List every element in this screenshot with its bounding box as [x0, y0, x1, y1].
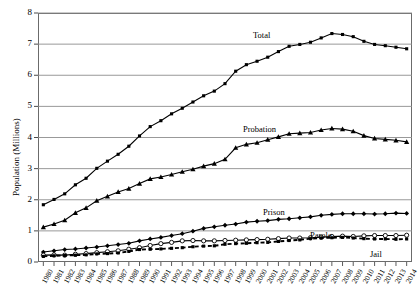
- data-point-parole: [148, 243, 152, 247]
- data-point-parole: [266, 237, 270, 241]
- data-point-total: [127, 145, 130, 148]
- data-point-total: [277, 50, 280, 53]
- data-point-total: [298, 43, 301, 46]
- data-point-total: [106, 160, 109, 163]
- data-point-total: [352, 35, 355, 38]
- data-point-prison: [201, 226, 206, 231]
- data-point-prison: [233, 222, 238, 227]
- data-point-prison: [362, 211, 367, 216]
- data-point-jail: [352, 236, 355, 239]
- data-point-jail: [52, 254, 55, 257]
- data-point-parole: [169, 240, 173, 244]
- data-point-jail: [149, 248, 152, 251]
- data-point-probation: [83, 205, 88, 210]
- data-point-total: [234, 70, 237, 73]
- data-point-prison: [329, 212, 334, 217]
- series-label-parole: Parole: [310, 230, 332, 240]
- data-point-jail: [117, 251, 120, 254]
- data-point-total: [288, 45, 291, 48]
- data-point-jail: [42, 255, 45, 258]
- y-axis-tick-label: 2: [14, 195, 32, 204]
- data-point-prison: [372, 212, 377, 217]
- data-point-total: [170, 112, 173, 115]
- data-point-prison: [84, 246, 89, 251]
- chart-container: Population (Millions) 012345678 19801981…: [0, 0, 419, 303]
- data-point-prison: [265, 218, 270, 223]
- data-point-prison: [394, 211, 399, 216]
- data-point-total: [362, 40, 365, 43]
- data-point-prison: [126, 241, 131, 246]
- data-point-total: [320, 36, 323, 39]
- data-point-total: [159, 119, 162, 122]
- data-point-jail: [127, 250, 130, 253]
- data-point-prison: [244, 220, 249, 225]
- data-point-total: [191, 100, 194, 103]
- series-label-probation: Probation: [243, 124, 276, 134]
- data-point-prison: [297, 215, 302, 220]
- data-point-prison: [62, 247, 67, 252]
- data-point-prison: [404, 211, 409, 216]
- data-point-jail: [298, 238, 301, 241]
- data-point-total: [266, 56, 269, 59]
- data-point-jail: [213, 244, 216, 247]
- data-point-prison: [212, 224, 217, 229]
- data-point-jail: [202, 245, 205, 248]
- data-point-jail: [256, 241, 259, 244]
- series-label-jail: Jail: [370, 249, 382, 259]
- data-point-total: [42, 203, 45, 206]
- series-line-total: [43, 34, 406, 205]
- data-point-prison: [340, 211, 345, 216]
- series-label-total: Total: [253, 30, 270, 40]
- data-point-parole: [202, 239, 206, 243]
- data-point-total: [405, 47, 408, 50]
- series-label-prison: Prison: [263, 207, 285, 217]
- data-point-jail: [384, 237, 387, 240]
- data-point-prison: [383, 211, 388, 216]
- y-axis-tick-label: 3: [14, 164, 32, 173]
- data-point-total: [52, 198, 55, 201]
- data-point-jail: [85, 253, 88, 256]
- data-point-total: [149, 125, 152, 128]
- data-point-jail: [277, 240, 280, 243]
- data-point-jail: [159, 247, 162, 250]
- data-point-prison: [148, 237, 153, 242]
- data-point-parole: [244, 238, 248, 242]
- data-point-jail: [266, 241, 269, 244]
- data-point-parole: [159, 242, 163, 246]
- y-axis-tick-label: 1: [14, 226, 32, 235]
- data-point-parole: [405, 233, 409, 237]
- data-point-prison: [255, 219, 260, 224]
- data-point-total: [341, 33, 344, 36]
- data-point-total: [181, 107, 184, 110]
- data-point-jail: [223, 243, 226, 246]
- data-point-total: [223, 82, 226, 85]
- data-point-prison: [191, 229, 196, 234]
- data-point-parole: [234, 238, 238, 242]
- data-point-prison: [351, 211, 356, 216]
- y-axis-tick-label: 4: [14, 133, 32, 142]
- data-point-jail: [405, 237, 408, 240]
- data-point-jail: [341, 236, 344, 239]
- data-point-prison: [319, 213, 324, 218]
- data-point-parole: [255, 237, 259, 241]
- data-point-total: [309, 41, 312, 44]
- data-point-total: [138, 134, 141, 137]
- data-point-parole: [383, 233, 387, 237]
- data-point-prison: [169, 233, 174, 238]
- data-point-prison: [73, 247, 78, 252]
- data-point-total: [85, 177, 88, 180]
- data-point-total: [394, 46, 397, 49]
- data-point-prison: [137, 238, 142, 243]
- data-point-prison: [223, 223, 228, 228]
- data-point-prison: [308, 214, 313, 219]
- data-point-parole: [180, 239, 184, 243]
- data-point-total: [95, 167, 98, 170]
- data-point-prison: [94, 245, 99, 250]
- data-point-parole: [191, 238, 195, 242]
- data-point-total: [117, 153, 120, 156]
- data-point-parole: [394, 233, 398, 237]
- data-point-jail: [245, 242, 248, 245]
- data-point-jail: [95, 252, 98, 255]
- data-point-parole: [212, 239, 216, 243]
- y-axis-tick-label: 0: [14, 257, 32, 266]
